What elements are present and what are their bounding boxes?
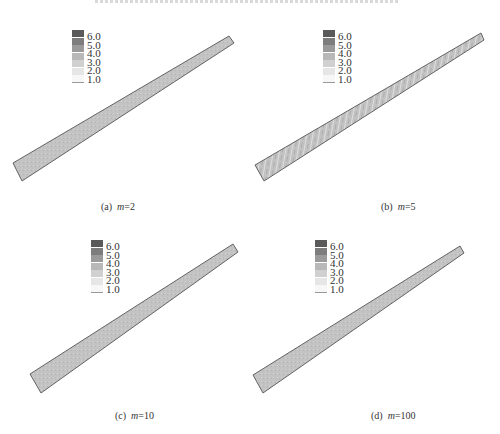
legend-swatch	[91, 285, 103, 293]
contour-band-c	[30, 244, 238, 393]
caption-a: (a) m=2	[101, 201, 135, 212]
legend-swatch	[323, 75, 335, 83]
legend-swatch	[72, 75, 84, 83]
contour-band-a	[13, 36, 234, 181]
legend-label: 1.0	[87, 74, 101, 85]
legend-label: 1.0	[106, 284, 120, 295]
contour-band-d	[253, 246, 464, 393]
legend-label: 1.0	[330, 284, 344, 295]
legend-label: 1.0	[338, 74, 352, 85]
caption-c: (c) m=10	[115, 410, 154, 421]
legend-swatch	[315, 285, 327, 293]
contour-band-b	[255, 33, 484, 181]
caption-d: (d) m=100	[371, 410, 416, 421]
caption-b: (b) m=5	[381, 201, 416, 212]
